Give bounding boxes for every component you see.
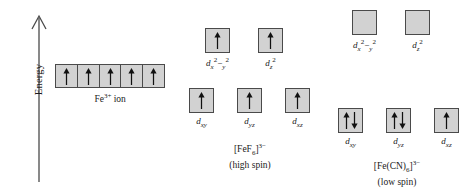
orbital-box-d-z2 <box>405 10 430 35</box>
orbital-box-d-xz <box>434 108 459 133</box>
spin-up-arrow-icon <box>391 112 398 129</box>
spin-up-arrow-icon <box>443 112 450 129</box>
complex-low-spin: dx2−y2dz2dxydyzdxz[Fe(CN)6]3−(low spin) <box>0 0 464 193</box>
complex-caption-low-spin: [Fe(CN)6]3−(low spin) <box>332 157 462 188</box>
spin-down-arrow-icon <box>351 112 358 129</box>
orbital-label-d-z2: dz2 <box>412 38 423 53</box>
orbital-label-d-xy: dxy <box>345 136 356 149</box>
orbital-d-yz: dyz <box>386 108 411 149</box>
orbital-d-z2: dz2 <box>405 10 430 53</box>
orbital-box-d-x2-y2 <box>352 10 377 35</box>
spin-up-arrow-icon <box>343 112 350 129</box>
complex-formula: [Fe(CN)6]3− <box>332 157 462 176</box>
electron-slot <box>339 109 362 132</box>
complex-spin-state: (low spin) <box>332 176 462 188</box>
electron-slot <box>406 11 429 34</box>
eg-level-row: dx2−y2dz2 <box>352 10 430 53</box>
orbital-d-x2-y2: dx2−y2 <box>352 10 377 53</box>
crystal-field-splitting-diagram: Energy Fe3+ ion dx2−y2dz2dxydyzdxz[FeF6]… <box>0 0 464 193</box>
orbital-d-xy: dxy <box>338 108 363 149</box>
orbital-box-d-xy <box>338 108 363 133</box>
orbital-label-d-x2-y2: dx2−y2 <box>353 38 376 53</box>
orbital-box-d-yz <box>386 108 411 133</box>
orbital-d-xz: dxz <box>434 108 459 149</box>
orbital-label-d-yz: dyz <box>393 136 403 149</box>
electron-slot <box>435 109 458 132</box>
spin-down-arrow-icon <box>399 112 406 129</box>
electron-slot <box>387 109 410 132</box>
electron-slot <box>353 11 376 34</box>
orbital-label-d-xz: dxz <box>441 136 451 149</box>
t2g-level-row: dxydyzdxz <box>338 108 459 149</box>
